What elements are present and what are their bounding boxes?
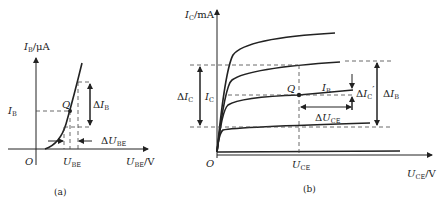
panel-a-ib-label: IB <box>7 105 17 118</box>
panel-b-output-characteristic: Q ΔIC IC ΔIB IB ΔIC′ ΔUCE IC/mA O UCE UC… <box>177 9 437 194</box>
panel-a-x-axis-label: UBE/V <box>126 156 155 169</box>
panel-a-delta-ube-label: ΔUBE <box>101 135 126 148</box>
panel-b-q-label: Q <box>287 83 295 94</box>
panel-b-uce-label: UCE <box>292 159 310 172</box>
panel-b-y-axis-label: IC/mA <box>184 9 215 22</box>
panel-a-caption: (a) <box>54 187 66 197</box>
panel-b-q-point <box>297 93 301 97</box>
panel-b-delta-uce-label: ΔUCE <box>315 112 341 125</box>
panel-b-x-axis-label: UCE/V <box>407 168 437 181</box>
panel-b-curve-5 <box>217 33 335 152</box>
panel-b-delta-ic-prime-label: ΔIC′ <box>356 84 375 101</box>
panel-a-delta-ib-label: ΔIB <box>93 99 109 112</box>
transistor-characteristics-diagram: Q ΔIB ΔUBE IB/μA IB O UBE UBE/V (a) <box>0 0 437 205</box>
panel-b-delta-ib-label: ΔIB <box>383 88 399 101</box>
panel-b-curve-1 <box>217 151 400 152</box>
panel-a-ube-label: UBE <box>63 156 81 169</box>
panel-b-origin-label: O <box>206 158 214 169</box>
panel-b-caption: (b) <box>303 184 316 194</box>
panel-b-ic-label: IC <box>204 91 214 104</box>
panel-b-delta-ic-label: ΔIC <box>177 91 193 104</box>
panel-a-q-label: Q <box>62 99 70 110</box>
panel-a-input-characteristic: Q ΔIB ΔUBE IB/μA IB O UBE UBE/V (a) <box>7 41 155 197</box>
panel-a-y-axis-label: IB/μA <box>23 41 51 54</box>
panel-a-origin-label: O <box>25 156 33 167</box>
